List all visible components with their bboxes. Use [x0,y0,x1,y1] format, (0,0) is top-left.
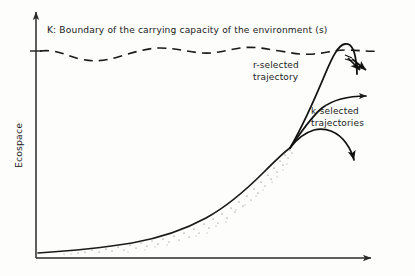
k-selected-trajectories-label: k-selectedtrajectories [311,106,364,129]
r-selected-label-line2: trajectory [253,72,298,82]
k-selected-label-line2: trajectories [311,118,364,128]
r-selected-label-line1: r-selected [253,60,299,70]
k-selected-label-line1: k-selected [311,106,359,116]
carrying-capacity-line [40,47,380,60]
scatter-points [64,149,293,254]
sigmoid-curve-line [38,148,290,253]
ecospace-growth-diagram: K: Boundary of the carrying capacity of … [0,0,415,276]
r-selected-trajectory-label: r-selectedtrajectory [253,60,299,83]
y-axis-label: Ecospace [13,111,24,181]
diagram-canvas [0,0,415,276]
carrying-capacity-label: K: Boundary of the carrying capacity of … [47,25,328,35]
sigmoid-growth-curve [38,148,293,254]
